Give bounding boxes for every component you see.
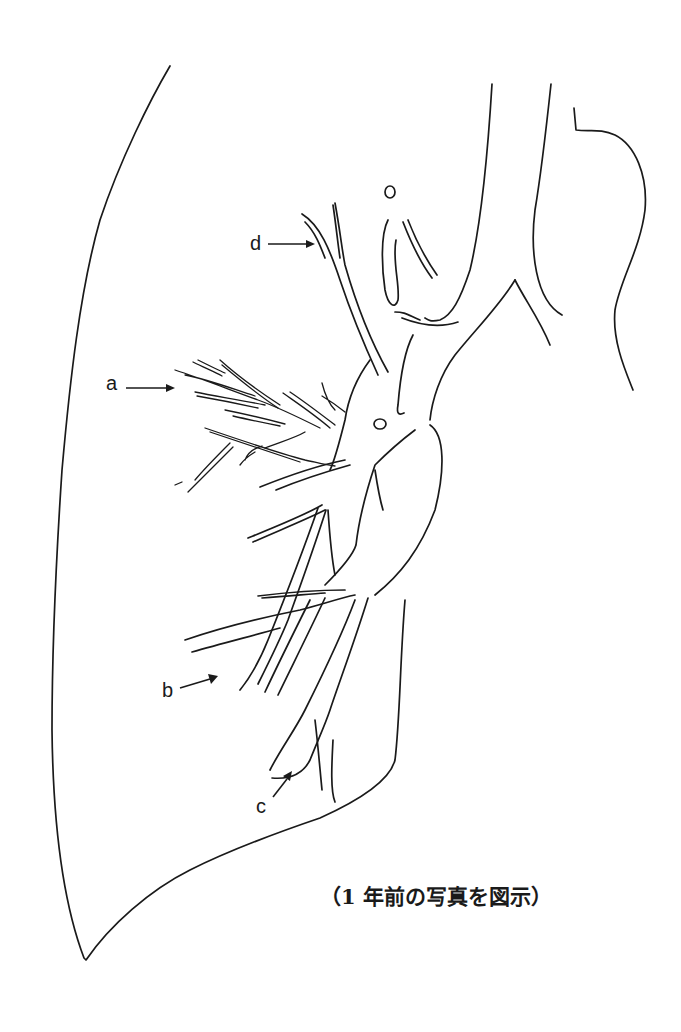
label-d: d [250,233,261,253]
main-bronchus-upper [430,280,515,420]
lung-diagram: d a b c （1 年前の写真を図示） [0,0,681,1032]
trachea-left-wall [425,84,492,321]
vessel-a-branch-9 [175,443,233,492]
upper-parallel-1 [403,222,432,278]
vessel-a-branch-7 [322,383,345,412]
upper-loop [382,220,398,305]
lower-vessel-inner [325,430,415,585]
label-c: c [256,796,266,816]
label-b: b [162,680,173,700]
figure-caption: （1 年前の写真を図示） [320,880,552,910]
vessel-c-right [332,740,335,802]
upper-parallel-2 [408,220,437,275]
arrow-d-icon [266,238,316,250]
lower-vessel-bulge [375,425,442,595]
diagram-drawing [0,0,681,1032]
vessel-a-branch-4 [195,392,265,408]
main-bronchus-notch [515,280,550,345]
vessel-c-branch [315,720,322,790]
vessel-b-lower-1 [265,598,325,695]
vessel-mid-branch-1 [260,460,350,490]
trachea-right-wall [533,84,562,315]
vessel-b-cross-3 [258,590,345,598]
label-a: a [106,373,117,393]
lung-outline [52,66,405,960]
vessel-b-line-3 [328,510,335,575]
arrow-a-icon [124,382,176,394]
arrow-b-icon [178,672,220,692]
vessel-a-branch-2 [193,360,225,376]
hilum-left-contour [330,360,370,470]
vessel-b-cross-2 [192,628,280,652]
lower-vessel-branch [375,470,383,510]
mediastinal-contour [574,108,645,390]
vessel-a-branch-10 [265,432,305,448]
small-oval-center [374,419,386,429]
vessel-a-branch-3 [220,360,280,408]
vessel-a-branch-8 [205,428,335,466]
small-oval-top [385,186,395,198]
vessel-a-branch-5 [225,410,285,426]
hilum-right-contour [397,335,413,414]
arrow-c-icon [270,770,294,800]
vessel-mid-branch-2 [248,505,325,542]
